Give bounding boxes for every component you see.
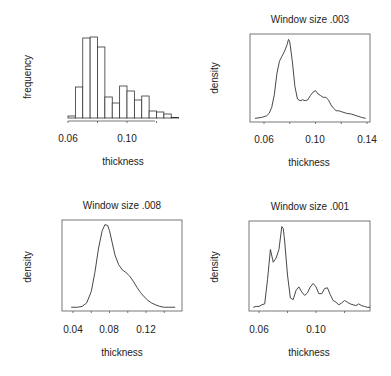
tick-label: 0.08 bbox=[99, 324, 119, 335]
histogram-bar bbox=[75, 87, 82, 118]
density-curve bbox=[253, 227, 370, 308]
density-curve bbox=[71, 225, 175, 308]
histogram-bar bbox=[171, 118, 178, 119]
histogram-bar bbox=[98, 47, 105, 118]
panel-title: Window size .003 bbox=[271, 14, 350, 25]
histogram-bar bbox=[68, 116, 75, 118]
histogram-bar bbox=[142, 96, 149, 118]
tick-label: 0.12 bbox=[136, 324, 156, 335]
tick-label: 0.06 bbox=[58, 133, 78, 144]
figure: 0.06 0.10 thickness frequency Window siz… bbox=[0, 0, 391, 376]
tick-label: 0.10 bbox=[305, 134, 325, 145]
tick-label: 0.06 bbox=[249, 324, 269, 335]
histogram-bar bbox=[83, 38, 90, 118]
panel-window-001: Window size .001 0.06 0.10 thickness den… bbox=[209, 201, 370, 358]
histogram-bar bbox=[90, 37, 97, 118]
histogram-bar bbox=[134, 100, 141, 118]
histogram-bars bbox=[68, 37, 179, 118]
x-axis-label: thickness bbox=[288, 157, 330, 168]
panel-window-008: Window size .008 0.04 0.08 0.12 thicknes… bbox=[22, 200, 182, 358]
y-axis-label: density bbox=[209, 251, 220, 283]
plot-frame bbox=[250, 34, 370, 122]
x-axis-label: thickness bbox=[288, 347, 330, 358]
panel-histogram: 0.06 0.10 thickness frequency bbox=[22, 37, 179, 167]
histogram-bar bbox=[112, 103, 119, 118]
plot-frame bbox=[249, 221, 370, 311]
histogram-bar bbox=[120, 86, 127, 118]
histogram-bar bbox=[157, 112, 164, 118]
x-axis-label: thickness bbox=[101, 347, 143, 358]
plot-frame bbox=[62, 220, 182, 311]
tick-label: 0.04 bbox=[63, 324, 83, 335]
tick-label: 0.10 bbox=[117, 133, 137, 144]
tick-label: 0.10 bbox=[306, 324, 326, 335]
panel-window-003: Window size .003 0.06 0.10 0.14 thicknes… bbox=[209, 14, 377, 168]
density-curve bbox=[255, 39, 366, 118]
panel-title: Window size .001 bbox=[271, 201, 350, 212]
panel-title: Window size .008 bbox=[83, 200, 162, 211]
x-axis-label: thickness bbox=[102, 156, 144, 167]
y-axis-label: density bbox=[209, 62, 220, 94]
histogram-bar bbox=[127, 91, 134, 118]
y-axis-label: density bbox=[22, 251, 33, 283]
histogram-bar bbox=[164, 114, 171, 118]
y-axis-label: frequency bbox=[22, 55, 33, 99]
tick-label: 0.06 bbox=[254, 134, 274, 145]
histogram-bar bbox=[149, 111, 156, 118]
tick-label: 0.14 bbox=[357, 134, 377, 145]
histogram-bar bbox=[105, 97, 112, 118]
